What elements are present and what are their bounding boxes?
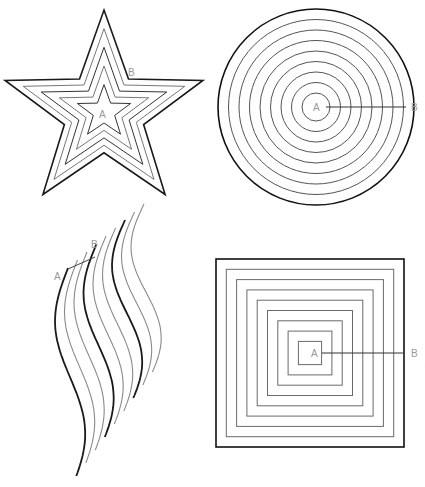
- wavy-line: [122, 212, 152, 385]
- star-label-a: A: [99, 109, 106, 120]
- circle-label-a: A: [313, 102, 320, 113]
- wavy-line: [65, 260, 95, 463]
- wavy-line: [131, 204, 161, 372]
- square-ring: [298, 341, 321, 364]
- wavy-line: [74, 252, 104, 450]
- star-label-b: B: [128, 67, 135, 78]
- waves-label-a: A: [54, 271, 61, 282]
- wavy-lines-figure: [55, 204, 161, 476]
- circle-label-b: B: [411, 102, 418, 113]
- waves-label-b: B: [91, 239, 98, 250]
- wavy-line: [93, 236, 123, 424]
- figure-canvas: A B A B A B A B: [0, 0, 425, 487]
- square-label-b: B: [411, 348, 418, 359]
- square-label-a: A: [311, 348, 318, 359]
- star-ring: [23, 29, 185, 180]
- concentric-star-figure: [5, 10, 203, 194]
- wavy-line: [55, 268, 85, 476]
- wavy-line: [112, 220, 142, 398]
- wavy-line: [103, 228, 133, 411]
- star-ring: [5, 10, 203, 194]
- wavy-line: [84, 244, 114, 437]
